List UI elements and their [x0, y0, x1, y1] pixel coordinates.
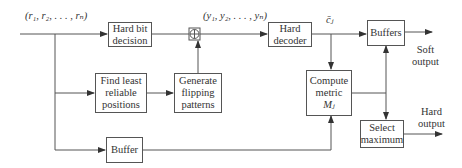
- soft-output-label: Soft output: [412, 44, 439, 68]
- select-maximum-block: Select maximum: [360, 120, 404, 148]
- generate-flipping-block: Generate flipping patterns: [174, 73, 222, 113]
- block-label-line: Hard bit: [113, 23, 148, 35]
- chase-decoder-diagram: (r₁, r₂, . . . , rₙ) (y₁, y₂, . . . , yₙ…: [0, 0, 462, 168]
- find-least-reliable-block: Find least reliable positions: [95, 73, 147, 113]
- block-label-line: decoder: [273, 35, 306, 47]
- block-label-line: metric: [316, 87, 343, 99]
- block-label-line: Generate: [179, 75, 217, 87]
- block-label-line: Hard: [280, 23, 301, 35]
- codeword-label: c̄ⱼ: [326, 14, 333, 26]
- input-signal-label: (r₁, r₂, . . . , rₙ): [25, 10, 87, 22]
- hard-bit-decision-block: Hard bit decision: [108, 22, 152, 47]
- block-label-line: Mⱼ: [323, 99, 335, 111]
- xor-icon: [189, 28, 200, 40]
- hard-decoder-block: Hard decoder: [268, 22, 312, 47]
- block-label-line: decision: [113, 35, 148, 47]
- block-label-line: flipping: [181, 87, 214, 99]
- block-label-line: reliable: [105, 87, 136, 99]
- block-label-line: maximum: [361, 134, 404, 146]
- buffers-block: Buffers: [367, 20, 405, 46]
- block-label-line: Buffer: [111, 144, 138, 156]
- block-label-line: Compute: [310, 75, 349, 87]
- block-label-line: patterns: [181, 99, 214, 111]
- compute-metric-block: Compute metric Mⱼ: [306, 70, 352, 116]
- block-label-line: Buffers: [370, 27, 401, 39]
- block-label-line: Find least: [100, 75, 141, 87]
- block-label-line: positions: [102, 99, 140, 111]
- block-label-line: Select: [369, 122, 395, 134]
- hard-output-label: Hard output: [418, 106, 445, 130]
- buffer-block: Buffer: [106, 137, 143, 163]
- hard-bits-label: (y₁, y₂, . . . , yₙ): [203, 10, 267, 22]
